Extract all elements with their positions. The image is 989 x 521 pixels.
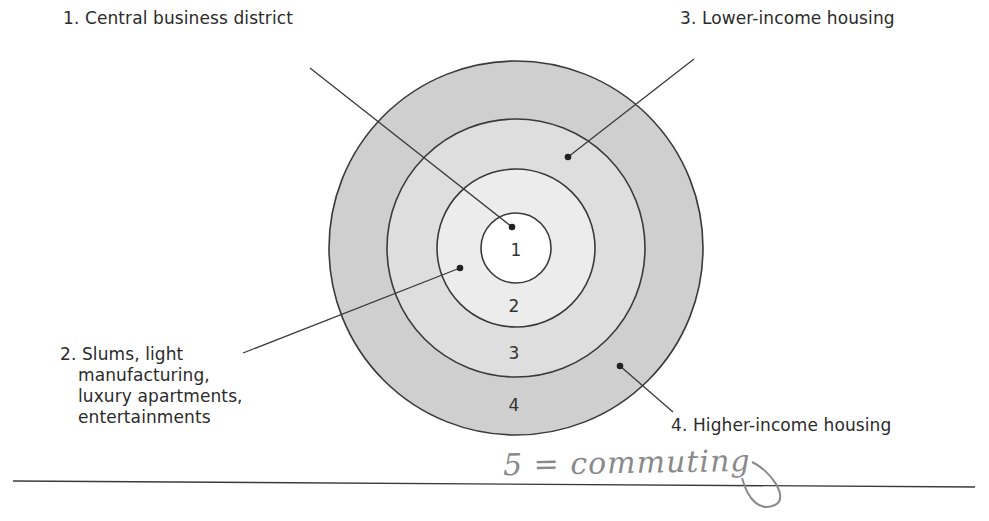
answer-rule xyxy=(13,481,975,487)
label-zone-3: 3. Lower-income housing xyxy=(680,8,895,29)
label-zone-1: 1. Central business district xyxy=(63,8,293,29)
leader-dot-zone-1 xyxy=(509,224,516,231)
leader-dot-zone-3 xyxy=(565,154,572,161)
label-zone-2: 2. Slums, light manufacturing, luxury ap… xyxy=(60,344,243,428)
label-zone-2-line-1: 2. Slums, light xyxy=(60,344,243,365)
label-zone-4: 4. Higher-income housing xyxy=(671,415,891,436)
zone-number-3: 3 xyxy=(509,343,520,363)
label-zone-2-line-3: luxury apartments, xyxy=(60,386,243,407)
leader-dot-zone-4 xyxy=(617,363,624,370)
label-zone-2-line-4: entertainments xyxy=(60,407,243,428)
handwritten-annotation: 5 = commuting xyxy=(503,443,751,482)
zone-number-2: 2 xyxy=(509,296,520,316)
zone-number-1: 1 xyxy=(511,240,522,260)
zone-number-4: 4 xyxy=(509,395,520,415)
concentric-zone-diagram xyxy=(0,0,989,521)
label-zone-2-line-2: manufacturing, xyxy=(60,365,243,386)
leader-dot-zone-2 xyxy=(457,265,464,272)
